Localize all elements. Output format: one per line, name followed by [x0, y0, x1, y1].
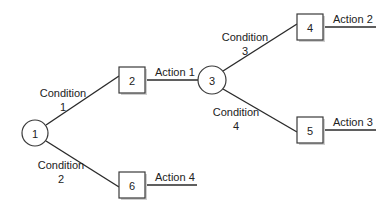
node-3: 3: [198, 66, 226, 94]
node-5-label: 5: [307, 125, 313, 137]
action-2-label: Action 2: [333, 13, 373, 25]
node-6-label: 6: [129, 180, 135, 192]
node-2-label: 2: [129, 75, 135, 87]
condition-2-label: Condition 2: [38, 159, 84, 185]
condition-3-label: Condition 3: [222, 31, 268, 57]
condition-1-label: Condition 1: [40, 87, 86, 113]
node-1-label: 1: [32, 128, 38, 140]
node-2: 2: [119, 67, 147, 95]
node-1: 1: [22, 120, 48, 146]
edges: [46, 24, 376, 187]
condition-2-line1: Condition: [38, 159, 84, 171]
condition-4-line1: Condition: [213, 106, 259, 118]
action-3-label: Action 3: [333, 116, 373, 128]
action-4-label: Action 4: [155, 171, 195, 183]
condition-1-line1: Condition: [40, 87, 86, 99]
node-3-label: 3: [209, 75, 215, 87]
decision-tree-diagram: 1 2 3 4 5 6 Condition 1 Condition 2 Cond…: [0, 0, 392, 215]
node-4: 4: [297, 14, 325, 42]
edge-1-to-2: [46, 76, 119, 125]
condition-1-line2: 1: [60, 101, 66, 113]
node-6: 6: [119, 172, 147, 200]
node-5: 5: [297, 117, 325, 145]
condition-4-line2: 4: [233, 120, 239, 132]
action-1-label: Action 1: [155, 66, 195, 78]
node-4-label: 4: [307, 22, 313, 34]
condition-4-label: Condition 4: [213, 106, 259, 132]
condition-3-line1: Condition: [222, 31, 268, 43]
condition-2-line2: 2: [58, 173, 64, 185]
condition-3-line2: 3: [242, 45, 248, 57]
